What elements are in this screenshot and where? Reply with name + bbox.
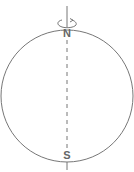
globe-diagram: N S (0, 0, 134, 172)
north-label: N (63, 27, 71, 39)
south-label: S (63, 149, 70, 161)
